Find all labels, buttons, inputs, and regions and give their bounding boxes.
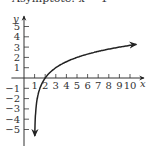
- x-tick-label: 5: [74, 80, 80, 91]
- x-tick-label: 7: [95, 80, 101, 91]
- x-tick-label: 3: [53, 80, 59, 91]
- x-tick-label: 1: [31, 80, 37, 91]
- chart: xy1234567891054321−1−2−3−4−5: [0, 0, 148, 147]
- x-tick-label: 6: [84, 80, 90, 91]
- x-axis-label: x: [140, 78, 146, 89]
- x-tick-label: 8: [106, 80, 112, 91]
- x-tick-label: 10: [124, 80, 137, 91]
- x-tick-label: 4: [63, 80, 69, 91]
- y-tick-label: −5: [5, 124, 20, 135]
- y-tick-label: 1: [14, 62, 20, 73]
- x-tick-label: 9: [116, 80, 122, 91]
